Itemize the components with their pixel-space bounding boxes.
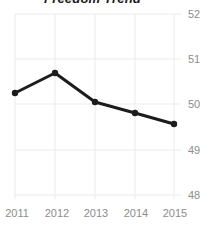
y-axis-tick-label: 51 [188,53,210,65]
x-axis-tick-label: 2015 [155,207,195,219]
data-point-2011 [12,90,18,96]
y-axis-tick-label: 49 [188,144,210,156]
y-axis-tick-label: 50 [188,98,210,110]
line-chart: Freedom Trend 52 51 50 49 48 2011 2012 2… [0,0,210,232]
x-axis-tick-label: 2013 [76,207,116,219]
x-axis-tick-label: 2014 [116,207,156,219]
y-axis-tick-label: 48 [188,189,210,201]
x-axis-tick-label: 2011 [0,207,37,219]
data-point-2015 [171,121,177,127]
grid-lines [15,14,181,199]
plot-area [0,0,210,232]
data-point-2014 [132,110,138,116]
data-point-2012 [52,70,58,76]
x-axis-tick-label: 2012 [37,207,77,219]
y-axis-tick-label: 52 [188,8,210,20]
data-point-2013 [92,99,98,105]
